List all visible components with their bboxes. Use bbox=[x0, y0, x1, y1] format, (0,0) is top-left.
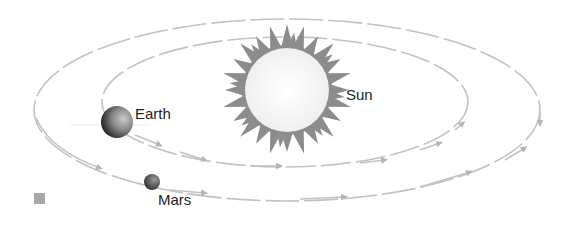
sun-label: Sun bbox=[346, 86, 373, 103]
earth-planet bbox=[101, 106, 133, 138]
sun bbox=[222, 24, 353, 155]
mars-planet bbox=[144, 174, 160, 190]
sun-body bbox=[245, 48, 329, 132]
mars-label: Mars bbox=[158, 191, 191, 208]
legend-square-icon bbox=[34, 193, 45, 204]
solar-orbit-diagram: Earth Mars Sun bbox=[0, 0, 568, 225]
earth-label: Earth bbox=[135, 105, 171, 122]
